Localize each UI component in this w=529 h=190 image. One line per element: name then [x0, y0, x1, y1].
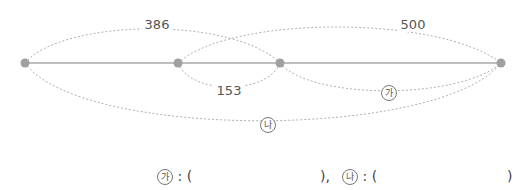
label-386: 386: [142, 18, 173, 32]
answer-ga-symbol: 가: [157, 169, 173, 185]
answer-na-colon: :: [362, 168, 367, 184]
answer-ga-blank-close: ),: [320, 168, 330, 184]
answer-ga: 가 : (: [157, 168, 192, 185]
label-na-circled: 나: [260, 117, 276, 133]
answer-na-open: (: [372, 168, 377, 184]
answer-na-blank-close: ): [507, 168, 512, 184]
point-1: [21, 59, 30, 68]
point-2: [174, 59, 183, 68]
point-4: [497, 59, 506, 68]
label-153: 153: [214, 84, 245, 98]
answer-na-symbol: 나: [342, 169, 358, 185]
arc-386: [25, 29, 280, 63]
arc-500: [178, 27, 501, 63]
answer-ga-colon: :: [177, 168, 182, 184]
point-3: [276, 59, 285, 68]
label-500: 500: [398, 18, 429, 32]
answer-na: 나 : (: [342, 168, 377, 185]
number-line-diagram: [0, 0, 529, 190]
arc-na: [25, 63, 501, 121]
label-ga-circled: 가: [381, 85, 397, 101]
answer-ga-open: (: [187, 168, 192, 184]
